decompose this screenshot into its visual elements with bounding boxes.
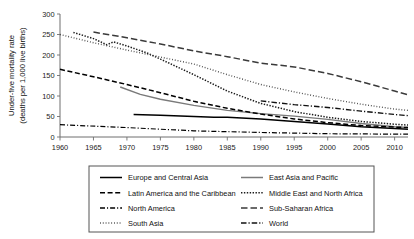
x-tick-label: 2005 [353, 143, 369, 152]
y-tick-label: 150 [42, 71, 54, 80]
legend-item-north-america-label: North America [128, 204, 176, 213]
x-tick-label: 1965 [85, 143, 101, 152]
x-tick-label: 1975 [152, 143, 168, 152]
x-tick-label: 1985 [219, 143, 235, 152]
series-line-south-asia [60, 35, 408, 111]
y-tick-label: 300 [42, 10, 54, 19]
y-tick-label: 50 [46, 112, 54, 121]
y-tick-label: 200 [42, 51, 54, 60]
series-line-world [261, 101, 408, 116]
x-tick-label: 1990 [253, 143, 269, 152]
legend-item-middle-east-and-north-africa-label: Middle East and North Africa [269, 189, 364, 198]
series-line-sub-saharan-africa [93, 32, 408, 95]
x-tick-label: 1970 [119, 143, 135, 152]
y-axis-title-line1: Under-five mortality rate [7, 35, 16, 116]
x-tick-label: 1995 [286, 143, 302, 152]
chart-figure: 0501001502002503001960196519701975198019… [0, 0, 414, 239]
series-line-latin-america-and-the-caribbean [60, 69, 408, 127]
y-tick-label: 0 [50, 133, 54, 142]
legend-item-europe-and-central-asia-label: Europe and Central Asia [128, 173, 209, 182]
legend-item-world-label: World [269, 219, 288, 228]
x-tick-label: 2000 [319, 143, 335, 152]
x-tick-label: 1960 [52, 143, 68, 152]
legend-item-south-asia-label: South Asia [128, 219, 164, 228]
under-five-mortality-line-chart: 0501001502002503001960196519701975198019… [0, 0, 414, 239]
legend-item-sub-saharan-africa-label: Sub-Saharan Africa [269, 204, 334, 213]
legend-item-east-asia-and-pacific-label: East Asia and Pacific [269, 173, 338, 182]
y-axis-title-line2: (deaths per 1,000 live births) [18, 27, 27, 124]
x-tick-label: 1980 [186, 143, 202, 152]
legend-item-latin-america-and-the-caribbean-label: Latin America and the Caribbean [128, 189, 236, 198]
y-tick-label: 100 [42, 92, 54, 101]
y-tick-label: 250 [42, 30, 54, 39]
x-tick-label: 2010 [386, 143, 402, 152]
